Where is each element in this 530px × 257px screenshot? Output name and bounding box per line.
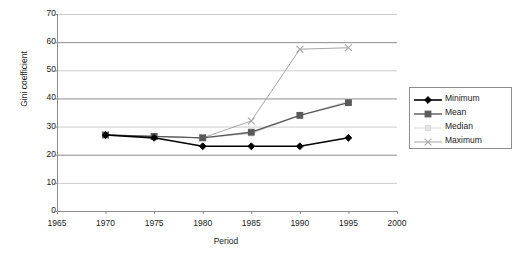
data-point-marker [199, 143, 206, 150]
gini-coefficient-line-chart: Gini coefficient 010203040506070 1965197… [0, 0, 530, 257]
x-axis-tick-label: 1965 [37, 218, 77, 228]
axes [54, 14, 398, 214]
diamond-marker-icon [413, 92, 443, 104]
x-axis-tick-label: 1970 [86, 218, 126, 228]
data-point-marker [425, 97, 432, 104]
gridlines [57, 15, 397, 212]
x-axis-title: Period [56, 236, 396, 246]
legend-item-maximum[interactable]: Maximum [410, 133, 511, 147]
data-point-marker [426, 126, 431, 131]
x-axis-tick-label: 1980 [183, 218, 223, 228]
data-point-marker [346, 100, 352, 106]
legend-item-minimum[interactable]: Minimum [410, 91, 511, 105]
data-point-marker [248, 118, 255, 125]
square-small-marker-icon [413, 120, 443, 132]
legend-label: Mean [445, 106, 466, 118]
data-point-marker [425, 111, 431, 117]
legend-label: Minimum [445, 92, 479, 104]
chart-legend: MinimumMeanMedianMaximum [409, 87, 512, 149]
x-axis-tick-labels: 19651970197519801985199019952000 [0, 218, 530, 232]
series-line [106, 48, 349, 138]
legend-item-mean[interactable]: Mean [410, 105, 511, 119]
series-line [106, 101, 349, 138]
series-line [106, 135, 349, 146]
x-axis-tick-label: 1975 [134, 218, 174, 228]
data-point-marker [248, 129, 254, 135]
data-point-marker [345, 134, 352, 141]
data-point-marker [248, 143, 255, 150]
square-marker-icon [413, 106, 443, 118]
legend-label: Median [445, 120, 473, 132]
legend-label: Maximum [445, 134, 482, 146]
x-axis-tick-label: 1995 [328, 218, 368, 228]
series-mean [103, 100, 352, 141]
x-axis-tick-label: 1985 [231, 218, 271, 228]
data-point-marker [200, 135, 206, 141]
x-axis-tick-label: 1990 [280, 218, 320, 228]
data-point-marker [296, 143, 303, 150]
series-line [106, 103, 349, 138]
x-axis-tick-label: 2000 [377, 218, 417, 228]
series-median [103, 99, 351, 140]
legend-item-median[interactable]: Median [410, 119, 511, 133]
data-point-marker [297, 112, 303, 118]
cross-marker-icon [413, 134, 443, 146]
